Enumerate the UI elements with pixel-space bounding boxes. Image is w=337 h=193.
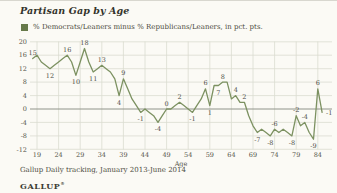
svg-text:19: 19 xyxy=(33,151,41,159)
svg-text:7: 7 xyxy=(216,89,220,97)
svg-text:6: 6 xyxy=(203,79,207,87)
svg-text:54: 54 xyxy=(184,151,192,159)
gallup-logo: GALLUP® xyxy=(20,181,65,191)
svg-text:16: 16 xyxy=(19,51,27,59)
svg-text:16: 16 xyxy=(63,46,71,54)
svg-text:-6: -6 xyxy=(271,120,277,128)
svg-text:2: 2 xyxy=(178,93,182,101)
svg-text:24: 24 xyxy=(54,151,62,159)
svg-text:0: 0 xyxy=(23,105,27,113)
svg-text:1: 1 xyxy=(208,109,212,117)
svg-text:12: 12 xyxy=(19,65,27,73)
svg-text:4: 4 xyxy=(117,99,121,107)
svg-text:-4: -4 xyxy=(155,125,161,133)
svg-text:4: 4 xyxy=(23,92,27,100)
svg-text:12: 12 xyxy=(46,72,54,80)
svg-text:-7: -7 xyxy=(254,136,260,144)
svg-text:69: 69 xyxy=(249,151,257,159)
svg-text:-4: -4 xyxy=(21,119,27,127)
svg-text:8: 8 xyxy=(23,78,27,86)
svg-text:-8: -8 xyxy=(289,139,295,147)
svg-text:11: 11 xyxy=(89,75,97,83)
svg-text:-8: -8 xyxy=(267,139,273,147)
svg-text:6: 6 xyxy=(316,79,320,87)
svg-text:10: 10 xyxy=(72,78,80,86)
svg-text:18: 18 xyxy=(80,39,88,47)
svg-text:74: 74 xyxy=(270,151,278,159)
svg-text:-4: -4 xyxy=(302,113,308,121)
svg-text:79: 79 xyxy=(292,151,300,159)
svg-text:-2: -2 xyxy=(293,106,299,114)
registered-mark-icon: ® xyxy=(60,181,65,186)
svg-text:-8: -8 xyxy=(21,132,27,140)
partisan-gap-line-chart: 1924293439444954596469747984201612840-4-… xyxy=(0,1,337,193)
svg-text:0: 0 xyxy=(165,100,169,108)
svg-text:44: 44 xyxy=(141,151,149,159)
svg-text:39: 39 xyxy=(119,151,127,159)
svg-text:20: 20 xyxy=(19,38,27,46)
gallup-chart-page: { "title": "Partisan Gap by Age", "legen… xyxy=(0,0,337,193)
svg-text:34: 34 xyxy=(98,151,106,159)
svg-text:-12: -12 xyxy=(17,146,27,154)
source-note: Gallup Daily tracking, January 2013-June… xyxy=(20,166,186,174)
svg-text:-1: -1 xyxy=(189,115,195,123)
svg-text:29: 29 xyxy=(76,151,84,159)
svg-text:8: 8 xyxy=(221,73,225,81)
svg-text:59: 59 xyxy=(206,151,214,159)
svg-text:84: 84 xyxy=(314,151,322,159)
svg-text:-9: -9 xyxy=(310,142,316,150)
svg-text:64: 64 xyxy=(227,151,235,159)
svg-text:-1: -1 xyxy=(138,115,144,123)
svg-text:4: 4 xyxy=(234,86,238,94)
svg-text:15: 15 xyxy=(29,49,37,57)
svg-text:9: 9 xyxy=(121,69,125,77)
svg-text:-1: -1 xyxy=(326,109,332,117)
svg-text:49: 49 xyxy=(162,151,170,159)
svg-text:2: 2 xyxy=(242,93,246,101)
svg-text:13: 13 xyxy=(98,56,106,64)
